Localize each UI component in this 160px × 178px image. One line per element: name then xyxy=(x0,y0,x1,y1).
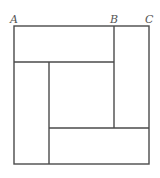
outer-square xyxy=(14,26,149,164)
label-b: B xyxy=(109,13,118,26)
pinwheel-square-diagram: A B C xyxy=(0,0,160,178)
label-a: A xyxy=(9,13,18,26)
label-c: C xyxy=(145,13,154,26)
